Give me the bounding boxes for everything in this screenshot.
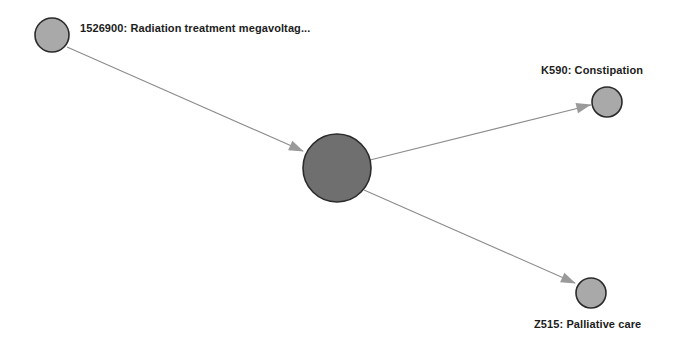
graph-edge[interactable] xyxy=(364,190,575,283)
node-label-1526900: 1526900: Radiation treatment megavoltag.… xyxy=(80,22,310,35)
edge-arrowhead xyxy=(575,99,592,113)
graph-edge[interactable] xyxy=(370,105,591,160)
network-graph-canvas[interactable]: 1526900: Radiation treatment megavoltag.… xyxy=(0,0,683,352)
graph-node-K590[interactable] xyxy=(592,87,622,117)
graph-svg-layer xyxy=(0,0,683,352)
graph-edge[interactable] xyxy=(67,47,303,151)
graph-node-1526900[interactable] xyxy=(35,18,69,52)
node-label-Z515: Z515: Palliative care xyxy=(534,318,641,331)
edge-arrowhead xyxy=(288,141,306,157)
edge-arrowhead xyxy=(560,273,578,289)
node-label-K590: K590: Constipation xyxy=(541,64,643,77)
graph-node-center[interactable] xyxy=(303,134,371,202)
graph-node-Z515[interactable] xyxy=(576,278,606,308)
